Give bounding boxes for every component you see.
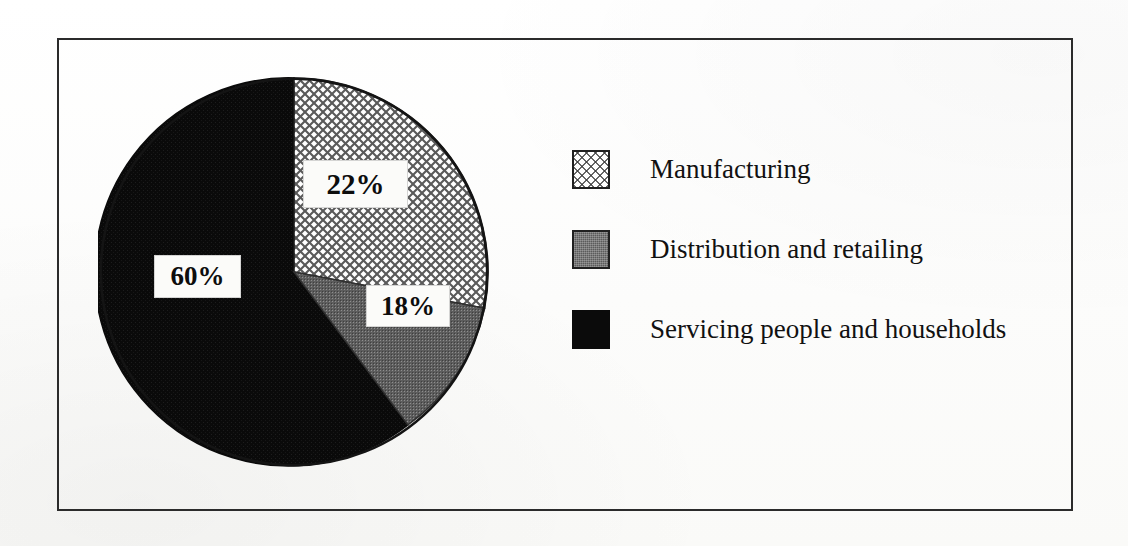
chart-legend: Manufacturing Distribution and retailing… — [572, 150, 1032, 390]
slice-label-servicing: 60% — [154, 255, 241, 298]
legend-item-distribution: Distribution and retailing — [572, 230, 1032, 310]
cross-hatch-swatch-icon — [572, 150, 610, 189]
pie-chart-figure: 22% 60% 18% Manufacturing Distribution a… — [0, 0, 1128, 546]
legend-item-manufacturing: Manufacturing — [572, 150, 1032, 230]
slice-label-distribution: 18% — [366, 285, 450, 327]
legend-item-label: Distribution and retailing — [650, 231, 923, 267]
legend-item-label: Manufacturing — [650, 151, 810, 187]
black-fill-swatch-icon — [572, 310, 610, 349]
gray-fill-swatch-icon — [572, 230, 610, 269]
slice-label-manufacturing: 22% — [303, 160, 408, 208]
legend-item-label: Servicing people and households — [650, 311, 1006, 347]
legend-item-servicing: Servicing people and households — [572, 310, 1032, 390]
